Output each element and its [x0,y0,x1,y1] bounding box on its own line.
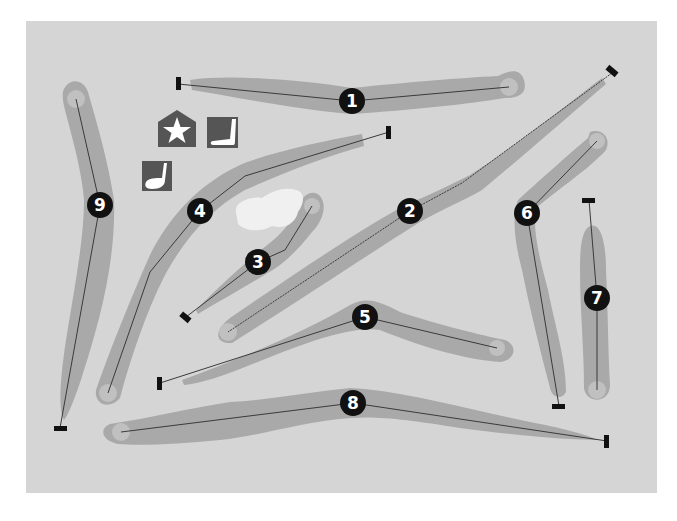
hole-8-tee-icon[interactable] [604,435,609,448]
hole-6-number: 6 [521,203,533,223]
hole-7-marker[interactable]: 7 [584,285,610,311]
hole-5-tee-icon[interactable] [157,377,162,390]
putter-icon[interactable] [207,117,238,148]
hole-4-number: 4 [194,201,206,221]
hole-3-marker[interactable]: 3 [245,249,271,275]
hole-7-tee-icon[interactable] [582,198,595,203]
hole-5-marker[interactable]: 5 [352,304,378,330]
hole-1-number: 1 [346,91,358,111]
hole-1-tee-icon[interactable] [176,77,181,90]
hole-2-marker[interactable]: 2 [397,198,423,224]
course-map-canvas: 1 2 3 4 5 6 7 8 [0,0,677,521]
hole-9-number: 9 [94,195,106,215]
golf-course-map: 1 2 3 4 5 6 7 8 [0,0,677,521]
hole-8-marker[interactable]: 8 [340,390,366,416]
hole-7-number: 7 [591,288,603,308]
driver-club-icon[interactable] [142,161,172,191]
hole-2-number: 2 [404,201,416,221]
hole-3-number: 3 [252,252,264,272]
hole-1-marker[interactable]: 1 [339,88,365,114]
hole-5-number: 5 [359,307,371,327]
hole-9-tee-icon[interactable] [54,426,67,431]
hole-4-tee-icon[interactable] [386,126,391,139]
hole-6-marker[interactable]: 6 [514,200,540,226]
hole-9-marker[interactable]: 9 [87,192,113,218]
hole-6-tee-icon[interactable] [552,404,565,409]
hole-8-number: 8 [347,393,359,413]
hole-4-marker[interactable]: 4 [187,198,213,224]
